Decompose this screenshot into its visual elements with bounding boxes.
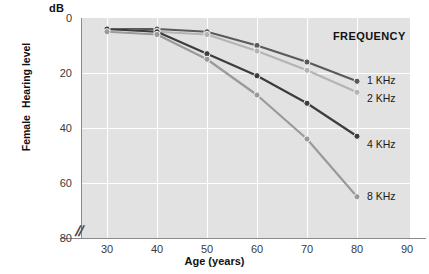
x-tick-60: 60	[237, 243, 277, 255]
x-tick-70: 70	[287, 243, 327, 255]
x-axis-label: Age (years)	[0, 255, 429, 267]
gridline-x-80	[357, 18, 358, 238]
x-axis-line	[60, 238, 426, 239]
legend-item-4khz[interactable]: 4 KHz	[367, 138, 396, 150]
legend-title: FREQUENCY	[333, 30, 406, 42]
y-axis-label-line2: Hearing level	[20, 43, 32, 108]
y-axis-line	[81, 18, 82, 239]
gridline-y-40	[82, 128, 410, 129]
x-tick-40: 40	[137, 243, 177, 255]
y-axis-label: Female Hearing level	[15, 37, 37, 157]
x-tick-30: 30	[87, 243, 127, 255]
x-tick-50: 50	[187, 243, 227, 255]
gridline-y-60	[82, 183, 410, 184]
gridline-x-70	[307, 18, 308, 238]
y-axis-label-line1: Female	[20, 115, 32, 151]
gridline-x-50	[207, 18, 208, 238]
legend-item-1khz[interactable]: 1 KHz	[367, 74, 396, 86]
gridline-y-20	[82, 73, 410, 74]
gridline-x-30	[107, 18, 108, 238]
legend-item-2khz[interactable]: 2 KHz	[367, 92, 396, 104]
gridline-x-40	[157, 18, 158, 238]
y-tick-0: 0	[0, 12, 72, 24]
legend-item-8khz[interactable]: 8 KHz	[367, 190, 396, 202]
x-tick-80: 80	[337, 243, 377, 255]
y-tick-80: 80	[0, 232, 72, 244]
gridline-x-60	[257, 18, 258, 238]
x-tick-90: 90	[387, 243, 427, 255]
y-tick-60: 60	[0, 177, 72, 189]
chart-root: dB 0 20 40 60 80 Female Hearing level //…	[0, 0, 429, 274]
